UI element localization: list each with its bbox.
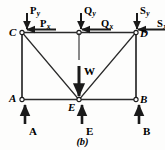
joint-pin-e <box>77 97 81 101</box>
load-symbol-s-x: S <box>157 18 163 29</box>
load-label-s-x: Sx <box>157 19 165 30</box>
joint-pin-d <box>134 30 138 34</box>
joint-label-b: B <box>140 94 147 105</box>
load-subscript-p-y: y <box>37 9 40 18</box>
load-subscript-q-x: x <box>109 22 113 31</box>
load-symbol-s-y: S <box>140 5 146 16</box>
truss-diagram-canvas <box>0 0 165 150</box>
load-label-p-x: Px <box>40 19 50 30</box>
joint-label-e: E <box>68 102 75 113</box>
joint-pin-a <box>20 97 24 101</box>
diagonal-c-e <box>23 34 78 99</box>
joint-label-d: D <box>140 28 148 39</box>
load-subscript-s-y: y <box>146 9 149 18</box>
weight-label-w: W <box>84 66 95 77</box>
figure-caption: (b) <box>0 136 165 147</box>
joint-label-a: A <box>9 93 16 104</box>
load-label-s-y: Sy <box>140 6 149 17</box>
load-label-p-y: Py <box>30 6 40 17</box>
load-subscript-p-x: x <box>47 22 51 31</box>
load-symbol-q-y: Q <box>84 5 92 16</box>
load-symbol-q-x: Q <box>101 18 109 29</box>
load-subscript-s-x: x <box>163 22 165 31</box>
load-symbol-p-x: P <box>40 18 46 29</box>
load-label-q-y: Qy <box>84 6 96 17</box>
load-subscript-q-y: y <box>92 9 95 18</box>
load-label-q-x: Qx <box>101 19 113 30</box>
load-symbol-p-y: P <box>30 5 36 16</box>
joint-label-c: C <box>9 27 16 38</box>
reaction-arrows <box>25 105 139 124</box>
joint-pin-b <box>134 97 138 101</box>
free-body-diagram-figure: C D A E B Py Px Qy Qx Sy Sx W A E B (b) <box>0 0 165 150</box>
joint-pin-c <box>20 30 24 34</box>
